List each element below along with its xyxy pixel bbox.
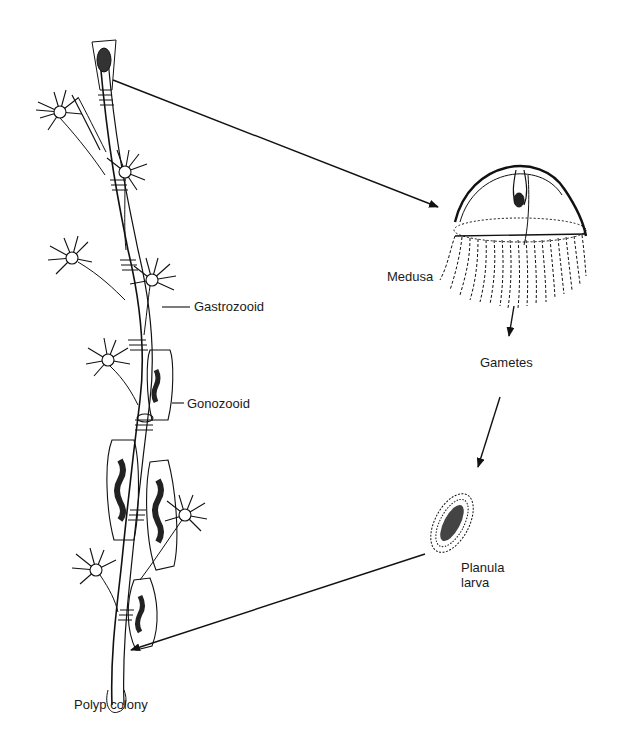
label-planula-line1: Planula (461, 560, 521, 575)
medusa-illustration (440, 166, 586, 308)
arrow-polyp-to-medusa (113, 80, 438, 207)
label-medusa: Medusa (387, 269, 433, 284)
label-gonozooid: Gonozooid (187, 396, 250, 411)
label-gametes: Gametes (480, 355, 533, 370)
arrow-gametes-to-planula (478, 397, 500, 467)
arrow-medusa-to-gametes (509, 306, 514, 336)
label-planula-larva: Planula larva (461, 560, 521, 590)
arrow-planula-to-polyp (131, 554, 425, 650)
label-polyp-colony: Polyp colony (74, 697, 148, 712)
polyp-colony-illustration (36, 40, 207, 713)
label-gastrozooid: Gastrozooid (194, 299, 264, 314)
planula-larva-illustration (422, 487, 482, 559)
life-cycle-diagram: Gastrozooid Gonozooid Medusa Gametes Pla… (0, 0, 621, 745)
label-planula-line2: larva (461, 575, 521, 590)
cycle-arrows (113, 80, 514, 650)
